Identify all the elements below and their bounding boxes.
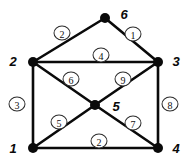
vertex-label-4: 4 <box>172 142 179 155</box>
edge-weight-3-4: 8 <box>162 97 179 112</box>
edge-weight-2-5: 6 <box>63 72 80 87</box>
edge-weight-2-3: 4 <box>93 48 110 63</box>
edge-weight-1-4: 2 <box>91 134 108 149</box>
vertex-label-1: 1 <box>9 142 16 155</box>
graph-node-6 <box>100 13 110 23</box>
vertex-label-2: 2 <box>9 55 16 68</box>
vertex-label-6: 6 <box>120 8 127 21</box>
edge-weight-6-3: 1 <box>125 27 142 42</box>
node-layer <box>28 13 163 153</box>
edge-weight-2-6: 2 <box>54 26 71 41</box>
vertex-label-3: 3 <box>172 55 179 68</box>
graph-node-3 <box>153 57 163 67</box>
edge-weight-1-5: 5 <box>51 115 68 130</box>
graph-node-2 <box>28 57 38 67</box>
weighted-graph-figure: 123456 2143869572 <box>0 0 189 166</box>
vertex-label-5: 5 <box>112 100 119 113</box>
graph-node-4 <box>153 143 163 153</box>
edge-weight-1-2: 3 <box>9 97 26 112</box>
edge-weight-4-5: 7 <box>125 116 142 131</box>
graph-node-5 <box>90 100 100 110</box>
edge-weight-3-5: 9 <box>115 72 132 87</box>
graph-node-1 <box>28 143 38 153</box>
